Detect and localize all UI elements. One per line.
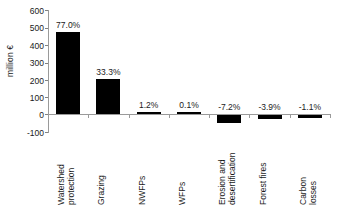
x-category-label-line: Grazing xyxy=(97,135,107,205)
x-category-label-line: WFPs xyxy=(178,135,188,205)
x-tick-mark xyxy=(48,114,49,118)
bar-value-label: 77.0% xyxy=(48,21,88,30)
x-category-label: Erosion anddesertification xyxy=(218,135,240,205)
bar-value-label: 1.2% xyxy=(129,101,169,110)
x-category-label: Carbonlosses xyxy=(299,135,321,205)
x-tick-mark xyxy=(249,114,250,118)
bar-chart: million € 600 500 400 300 200 100 0 -100… xyxy=(0,0,340,207)
bar-value-label: 33.3% xyxy=(88,68,128,77)
y-tick-label: 200 xyxy=(14,77,44,86)
x-tick-mark xyxy=(290,114,291,118)
x-tick-mark xyxy=(209,114,210,118)
bar xyxy=(177,112,201,115)
x-category-label-line: NWFPs xyxy=(138,135,148,205)
bar-value-label: -1.1% xyxy=(290,103,330,112)
x-tick-mark xyxy=(129,114,130,118)
y-tick-label: -100 xyxy=(14,129,44,138)
x-category-label: WFPs xyxy=(178,135,200,205)
x-axis-zero-line xyxy=(48,114,330,115)
bar-value-label: -3.9% xyxy=(250,103,290,112)
x-category-label: Watershedprotection xyxy=(57,135,79,205)
bar xyxy=(56,32,80,114)
y-axis-tick-labels: 600 500 400 300 200 100 0 -100 xyxy=(14,0,44,207)
y-tick-label: 500 xyxy=(14,24,44,33)
bar xyxy=(137,112,161,115)
bar xyxy=(217,115,241,123)
bar xyxy=(96,79,120,114)
y-tick-label: 400 xyxy=(14,42,44,51)
x-category-label-line: Forest fires xyxy=(259,135,269,205)
x-category-label-line: losses xyxy=(308,135,318,205)
y-tick-label: 0 xyxy=(14,111,44,120)
y-tick-label: 300 xyxy=(14,59,44,68)
y-tick-label: 600 xyxy=(14,7,44,16)
x-category-label: NWFPs xyxy=(138,135,160,205)
bar xyxy=(298,115,322,118)
bar-value-label: 0.1% xyxy=(169,101,209,110)
bar xyxy=(258,115,282,119)
x-category-label-line: Carbon xyxy=(299,135,309,205)
bar-value-label: -7.2% xyxy=(209,103,249,112)
x-category-label-line: protection xyxy=(67,135,77,205)
x-tick-mark xyxy=(330,114,331,118)
x-tick-mark xyxy=(88,114,89,118)
x-category-label: Forest fires xyxy=(259,135,281,205)
x-category-label-line: desertification xyxy=(228,135,238,205)
x-tick-mark xyxy=(169,114,170,118)
y-tick-label: 100 xyxy=(14,94,44,103)
x-category-label: Grazing xyxy=(97,135,119,205)
